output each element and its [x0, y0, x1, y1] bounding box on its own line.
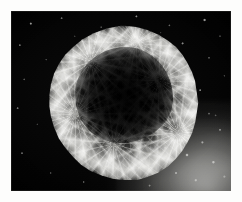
glow-star-field [11, 11, 231, 191]
photographic-plate [11, 11, 231, 191]
figure-root [0, 0, 242, 202]
